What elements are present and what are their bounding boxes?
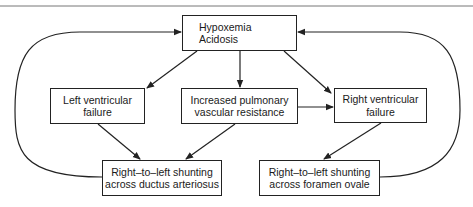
node-ductus-line2: across ductus arteriosus <box>105 178 219 191</box>
node-hypoxemia-line2: Acidosis <box>199 33 252 46</box>
node-increased-pulmonary-vascular-resistance: Increased pulmonary vascular resistance <box>181 88 298 124</box>
arrow-hypoxemia-to-lv <box>147 51 197 88</box>
node-right-ventricular-failure: Right ventricular failure <box>334 88 427 123</box>
node-ductus-line1: Right–to–left shunting <box>105 166 219 179</box>
node-lv-line1: Left ventricular <box>63 94 132 107</box>
node-lv-line2: failure <box>63 106 132 119</box>
node-hypoxemia-acidosis: Hypoxemia Acidosis <box>182 15 297 51</box>
arrow-hypoxemia-to-rv <box>284 51 331 93</box>
node-rv-line1: Right ventricular <box>343 93 419 106</box>
node-shunting-ductus-arteriosus: Right–to–left shunting across ductus art… <box>102 160 222 196</box>
arrow-rv-to-foramen <box>324 123 381 159</box>
node-pvr-line2: vascular resistance <box>190 106 288 119</box>
node-rv-line2: failure <box>343 106 419 119</box>
node-foramen-line1: Right–to–left shunting <box>269 166 371 179</box>
node-foramen-line2: across foramen ovale <box>269 178 371 191</box>
node-shunting-foramen-ovale: Right–to–left shunting across foramen ov… <box>259 160 380 196</box>
node-pvr-line1: Increased pulmonary <box>190 94 288 107</box>
arrow-lv-to-ductus <box>98 124 140 159</box>
node-left-ventricular-failure: Left ventricular failure <box>50 88 145 124</box>
arrow-pvr-to-ductus <box>186 124 235 159</box>
node-hypoxemia-line1: Hypoxemia <box>199 21 252 34</box>
